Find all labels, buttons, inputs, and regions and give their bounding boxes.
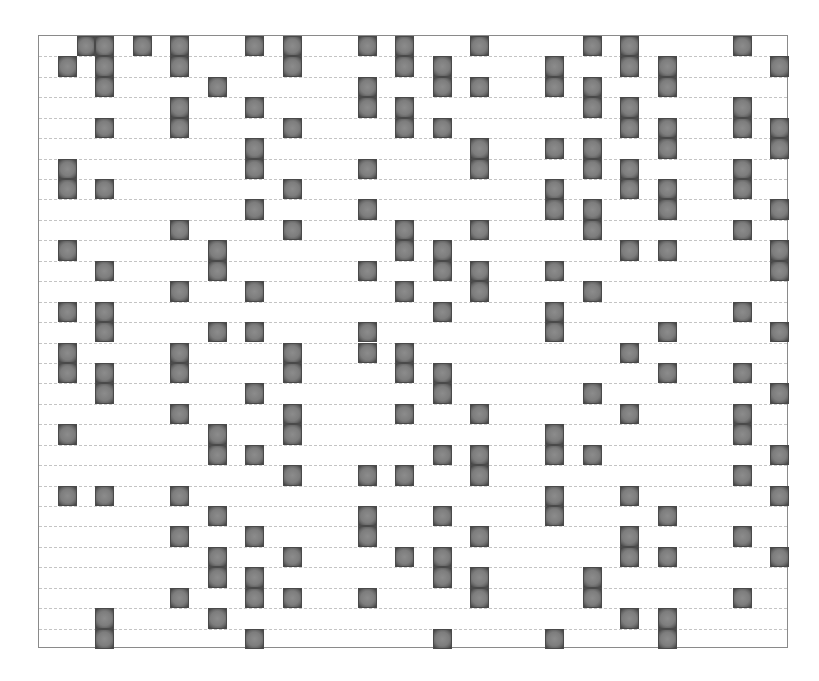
grid-cell-filled <box>470 445 489 465</box>
grid-cell-filled <box>658 629 677 649</box>
grid-cell-filled <box>208 424 227 444</box>
grid-cell-filled <box>95 302 114 322</box>
grid-cell-filled <box>433 77 452 97</box>
grid-cell-filled <box>358 199 377 219</box>
grid-cell-filled <box>658 322 677 342</box>
grid-cell-filled <box>208 445 227 465</box>
grid-cell-filled <box>620 36 639 56</box>
row-divider <box>39 302 787 303</box>
grid-cell-filled <box>620 97 639 117</box>
grid-cell-filled <box>95 77 114 97</box>
grid-cell-filled <box>470 138 489 158</box>
grid-cell-filled <box>620 547 639 567</box>
grid-cell-filled <box>358 322 377 342</box>
grid-cell-filled <box>470 220 489 240</box>
grid-cell-filled <box>58 302 77 322</box>
grid-cell-filled <box>208 240 227 260</box>
grid-cell-filled <box>470 77 489 97</box>
grid-cell-filled <box>470 159 489 179</box>
grid-cell-filled <box>95 383 114 403</box>
row-divider <box>39 526 787 527</box>
grid-cell-filled <box>433 567 452 587</box>
grid-cell-filled <box>433 56 452 76</box>
grid-cell-filled <box>95 322 114 342</box>
grid-cell-filled <box>95 629 114 649</box>
row-divider <box>39 383 787 384</box>
grid-cell-filled <box>733 588 752 608</box>
grid-cell-filled <box>433 547 452 567</box>
grid-cell-filled <box>433 383 452 403</box>
grid-cell-filled <box>95 118 114 138</box>
row-divider <box>39 445 787 446</box>
grid-cell-filled <box>95 486 114 506</box>
grid-cell-filled <box>170 36 189 56</box>
grid-cell-filled <box>545 199 564 219</box>
grid-cell-filled <box>358 343 377 363</box>
grid-cell-filled <box>245 322 264 342</box>
grid-cell-filled <box>620 179 639 199</box>
grid-cell-filled <box>283 404 302 424</box>
grid-cell-filled <box>658 138 677 158</box>
grid-cell-filled <box>583 159 602 179</box>
grid-cell-filled <box>770 199 789 219</box>
grid-cell-filled <box>770 240 789 260</box>
grid-cell-filled <box>733 424 752 444</box>
grid-cell-filled <box>95 179 114 199</box>
row-divider <box>39 588 787 589</box>
grid-cell-filled <box>620 526 639 546</box>
grid-cell-filled <box>470 567 489 587</box>
grid-cell-filled <box>583 220 602 240</box>
grid-cell-filled <box>658 56 677 76</box>
grid-cell-filled <box>170 363 189 383</box>
grid-cell-filled <box>358 159 377 179</box>
grid-cell-filled <box>395 36 414 56</box>
grid-cell-filled <box>770 56 789 76</box>
grid-cell-filled <box>770 138 789 158</box>
grid-cell-filled <box>620 404 639 424</box>
grid-cell-filled <box>395 281 414 301</box>
grid-cell-filled <box>395 363 414 383</box>
grid-cell-filled <box>208 77 227 97</box>
grid-cell-filled <box>358 526 377 546</box>
grid-cell-filled <box>95 363 114 383</box>
grid-cell-filled <box>770 547 789 567</box>
grid-cell-filled <box>770 118 789 138</box>
grid-cell-filled <box>170 118 189 138</box>
grid-cell-filled <box>170 588 189 608</box>
grid-cell-filled <box>170 281 189 301</box>
grid-cell-filled <box>770 261 789 281</box>
grid-cell-filled <box>470 404 489 424</box>
grid-cell-filled <box>395 240 414 260</box>
grid-cell-filled <box>283 118 302 138</box>
grid-cell-filled <box>733 220 752 240</box>
grid-cell-filled <box>545 629 564 649</box>
grid-cell-filled <box>245 97 264 117</box>
grid-cell-filled <box>583 445 602 465</box>
grid-cell-filled <box>208 322 227 342</box>
row-divider <box>39 261 787 262</box>
grid-cell-filled <box>283 424 302 444</box>
grid-cell-filled <box>545 486 564 506</box>
grid-cell-filled <box>433 506 452 526</box>
grid-cell-filled <box>470 588 489 608</box>
grid-cell-filled <box>395 97 414 117</box>
grid-cell-filled <box>733 363 752 383</box>
grid-cell-filled <box>658 77 677 97</box>
grid-cell-filled <box>170 404 189 424</box>
grid-cell-filled <box>208 608 227 628</box>
grid-cell-filled <box>733 465 752 485</box>
grid-cell-filled <box>283 220 302 240</box>
grid-cell-filled <box>545 445 564 465</box>
grid-cell-filled <box>583 567 602 587</box>
grid-cell-filled <box>733 404 752 424</box>
grid-cell-filled <box>620 486 639 506</box>
grid-cell-filled <box>733 526 752 546</box>
grid-cell-filled <box>545 424 564 444</box>
row-divider <box>39 567 787 568</box>
grid-cell-filled <box>133 36 152 56</box>
grid-cell-filled <box>58 486 77 506</box>
grid-cell-filled <box>433 629 452 649</box>
grid-cell-filled <box>283 465 302 485</box>
grid-cell-filled <box>470 36 489 56</box>
grid-cell-filled <box>208 567 227 587</box>
